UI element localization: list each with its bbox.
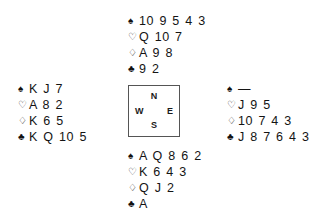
diamond-icon: ♢ xyxy=(128,48,139,58)
north-spades-cards: 10 9 5 4 3 xyxy=(139,15,206,28)
club-icon: ♣ xyxy=(18,132,29,142)
east-diamonds-cards: 10 7 4 3 xyxy=(238,115,292,128)
east-hearts-row: ♡ J 9 5 xyxy=(227,97,309,113)
heart-icon: ♡ xyxy=(128,32,139,42)
west-hearts-cards: A 8 2 xyxy=(29,99,63,112)
spade-icon: ♠ xyxy=(227,84,238,94)
spade-icon: ♠ xyxy=(128,16,139,26)
north-diamonds-row: ♢ A 9 8 xyxy=(128,45,206,61)
compass-label-west: W xyxy=(135,107,144,116)
spade-icon: ♠ xyxy=(128,151,139,161)
north-clubs-cards: 9 2 xyxy=(139,63,159,76)
south-diamonds-row: ♢ Q J 2 xyxy=(128,180,202,196)
north-clubs-row: ♣ 9 2 xyxy=(128,61,206,77)
west-clubs-row: ♣ K Q 10 5 xyxy=(18,129,87,145)
diamond-icon: ♢ xyxy=(128,183,139,193)
west-spades-row: ♠ K J 7 xyxy=(18,81,87,97)
east-spades-row: ♠ — xyxy=(227,81,309,97)
south-diamonds-cards: Q J 2 xyxy=(139,182,174,195)
compass-label-south: S xyxy=(151,121,157,130)
north-hearts-row: ♡ Q 10 7 xyxy=(128,29,206,45)
bridge-deal-diagram: ♠ 10 9 5 4 3 ♡ Q 10 7 ♢ A 9 8 ♣ 9 2 ♠ K … xyxy=(0,0,321,224)
heart-icon: ♡ xyxy=(18,100,29,110)
south-hearts-cards: K 6 4 3 xyxy=(139,166,187,179)
hand-south: ♠ A Q 8 6 2 ♡ K 6 4 3 ♢ Q J 2 ♣ A xyxy=(128,148,202,212)
south-spades-row: ♠ A Q 8 6 2 xyxy=(128,148,202,164)
diamond-icon: ♢ xyxy=(227,116,238,126)
hand-north: ♠ 10 9 5 4 3 ♡ Q 10 7 ♢ A 9 8 ♣ 9 2 xyxy=(128,13,206,77)
west-hearts-row: ♡ A 8 2 xyxy=(18,97,87,113)
heart-icon: ♡ xyxy=(128,167,139,177)
north-spades-row: ♠ 10 9 5 4 3 xyxy=(128,13,206,29)
club-icon: ♣ xyxy=(128,199,139,209)
south-clubs-row: ♣ A xyxy=(128,196,202,212)
west-spades-cards: K J 7 xyxy=(29,83,63,96)
east-clubs-cards: J 8 7 6 4 3 xyxy=(238,131,309,144)
compass-box: N W E S xyxy=(128,85,180,137)
south-spades-cards: A Q 8 6 2 xyxy=(139,150,202,163)
compass-label-east: E xyxy=(167,107,173,116)
heart-icon: ♡ xyxy=(227,100,238,110)
north-hearts-cards: Q 10 7 xyxy=(139,31,183,44)
diamond-icon: ♢ xyxy=(18,116,29,126)
compass-label-north: N xyxy=(151,92,158,101)
west-diamonds-cards: K 6 5 xyxy=(29,115,64,128)
club-icon: ♣ xyxy=(128,64,139,74)
club-icon: ♣ xyxy=(227,132,238,142)
hand-west: ♠ K J 7 ♡ A 8 2 ♢ K 6 5 ♣ K Q 10 5 xyxy=(18,81,87,145)
hand-east: ♠ — ♡ J 9 5 ♢ 10 7 4 3 ♣ J 8 7 6 4 3 xyxy=(227,81,309,145)
east-hearts-cards: J 9 5 xyxy=(238,99,271,112)
east-spades-cards: — xyxy=(238,83,251,96)
north-diamonds-cards: A 9 8 xyxy=(139,47,173,60)
east-clubs-row: ♣ J 8 7 6 4 3 xyxy=(227,129,309,145)
spade-icon: ♠ xyxy=(18,84,29,94)
west-clubs-cards: K Q 10 5 xyxy=(29,131,87,144)
south-clubs-cards: A xyxy=(139,198,148,211)
south-hearts-row: ♡ K 6 4 3 xyxy=(128,164,202,180)
west-diamonds-row: ♢ K 6 5 xyxy=(18,113,87,129)
east-diamonds-row: ♢ 10 7 4 3 xyxy=(227,113,309,129)
